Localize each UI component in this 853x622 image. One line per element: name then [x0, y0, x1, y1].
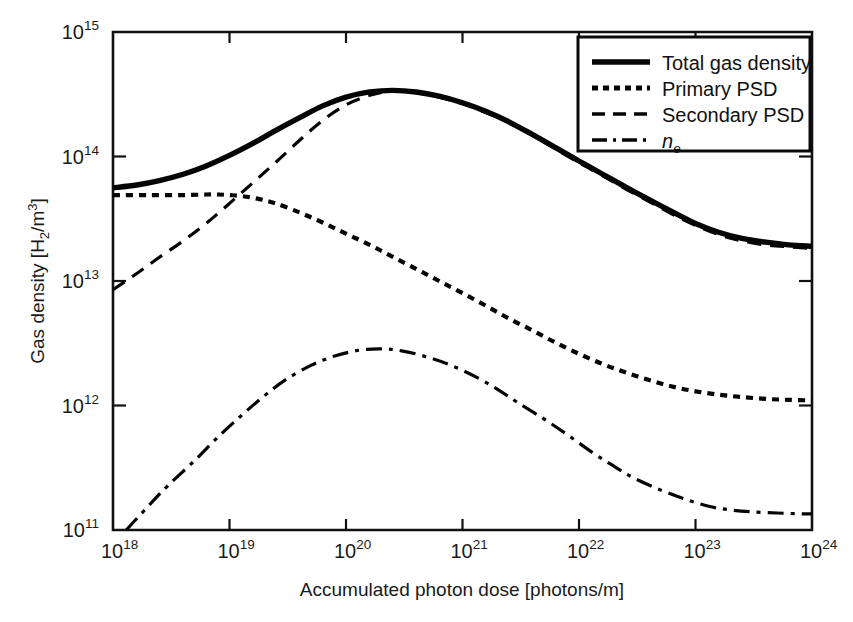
x-tick-label-24: 1024 — [800, 537, 838, 562]
y-axis-title-tail: ] — [27, 198, 48, 203]
legend-label-2[interactable]: Primary PSD — [662, 78, 778, 100]
y-axis-title-lead: Gas density [H — [27, 239, 48, 364]
y-tick-label-13: 1013 — [62, 267, 99, 292]
x-tick-label-21: 1021 — [451, 537, 488, 562]
x-tick-label-19: 1019 — [218, 537, 255, 562]
y-axis-title-sub: 2 — [37, 232, 52, 239]
y-tick-label-15: 1015 — [62, 18, 99, 43]
gas-density-log-log-plot: 1018101910201021102210231024101110121013… — [0, 0, 853, 622]
x-tick-label-18: 1018 — [101, 537, 138, 562]
curve-primary-psd — [113, 194, 812, 400]
x-tick-label-20: 1020 — [334, 537, 371, 562]
curve-n-e — [126, 349, 812, 530]
figure-container: 1018101910201021102210231024101110121013… — [0, 0, 853, 622]
x-axis-title: Accumulated photon dose [photons/m] — [300, 579, 624, 600]
y-axis-title-text: Gas density [H2/m3] — [25, 198, 52, 363]
y-tick-label-11: 1011 — [63, 516, 99, 541]
legend-label-1[interactable]: Total gas density — [662, 52, 811, 74]
y-tick-label-14: 1014 — [62, 143, 100, 168]
x-axis-title-text: Accumulated photon dose [photons/m] — [300, 579, 624, 600]
x-tick-label-22: 1022 — [567, 537, 604, 562]
y-axis-title-mid: /m — [27, 211, 48, 232]
y-tick-label-12: 1012 — [62, 392, 99, 417]
x-tick-label-23: 1023 — [684, 537, 721, 562]
y-axis-title-sup: 3 — [25, 204, 40, 211]
legend-label-3[interactable]: Secondary PSD — [662, 104, 804, 126]
legend[interactable]: Total gas densityPrimary PSDSecondary PS… — [578, 37, 811, 156]
curves-group — [113, 90, 812, 530]
y-axis-title: Gas density [H2/m3] — [25, 198, 52, 363]
